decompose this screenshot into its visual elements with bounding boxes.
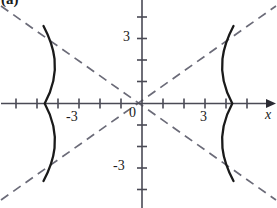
y-tick-label-pos3: 3 xyxy=(123,29,130,45)
hyperbola-figure: (a) -3 3 3 -3 0 x xyxy=(0,0,277,208)
y-tick-label-neg3: -3 xyxy=(113,158,125,174)
panel-tag-label: (a) xyxy=(1,0,19,8)
x-axis-label: x xyxy=(265,107,271,123)
origin-label: 0 xyxy=(129,105,136,121)
x-tick-label-neg3: -3 xyxy=(66,109,78,125)
plot-canvas xyxy=(0,0,277,208)
x-axis xyxy=(1,99,276,109)
x-tick-label-pos3: 3 xyxy=(200,109,207,125)
